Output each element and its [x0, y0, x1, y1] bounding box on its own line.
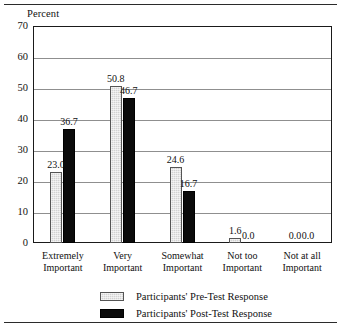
- legend-swatch-pre-test: [100, 292, 124, 301]
- y-axis-tick-label: 30: [0, 145, 28, 155]
- y-axis-tick-label: 60: [0, 52, 28, 62]
- bar-post-2: [183, 191, 195, 243]
- bar-chart-figure: Percent 010203040506070 23.036.750.846.7…: [0, 0, 341, 329]
- y-axis-tick-label: 70: [0, 21, 28, 31]
- bar-pre-0: [50, 172, 62, 243]
- bar-value-label: 0.0: [234, 231, 262, 241]
- legend-label-post-test: Participants' Post-Test Response: [136, 308, 272, 319]
- bar-value-label: 24.6: [162, 155, 190, 165]
- y-axis-tick-label: 0: [0, 238, 28, 248]
- bottom-divider-rule: [4, 322, 337, 323]
- y-axis-tick-label: 10: [0, 207, 28, 217]
- y-axis-tick-label: 20: [0, 176, 28, 186]
- y-axis-tick-label: 50: [0, 83, 28, 93]
- chart-legend: Participants' Pre-Test Response Particip…: [100, 289, 330, 323]
- bar-value-label: 16.7: [175, 179, 203, 189]
- y-axis-tick-label: 40: [0, 114, 28, 124]
- bars-group: [33, 26, 332, 243]
- legend-label-pre-test: Participants' Pre-Test Response: [136, 291, 268, 302]
- bar-value-label: 46.7: [115, 86, 143, 96]
- bar-value-label: 50.8: [102, 74, 130, 84]
- y-axis-title: Percent: [27, 8, 59, 19]
- top-divider-rule: [4, 4, 337, 5]
- bar-post-0: [63, 129, 75, 243]
- legend-item-pre-test: Participants' Pre-Test Response: [100, 289, 330, 303]
- x-axis-category-label: Not at allImportant: [267, 250, 337, 273]
- bar-post-1: [123, 98, 135, 243]
- bar-value-label: 36.7: [55, 117, 83, 127]
- bar-pre-1: [110, 86, 122, 243]
- legend-swatch-post-test: [100, 309, 124, 318]
- bar-value-label: 0.0: [294, 231, 322, 241]
- bar-value-label: 23.0: [42, 160, 70, 170]
- legend-item-post-test: Participants' Post-Test Response: [100, 306, 330, 320]
